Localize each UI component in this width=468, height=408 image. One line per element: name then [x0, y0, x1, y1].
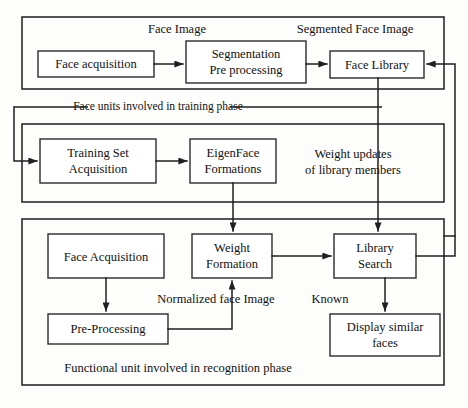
flowchart-canvas: Face units involved in training phase Fa… [0, 0, 468, 408]
node-library-search-label-line2: Search [358, 257, 393, 271]
flowchart-diagram: Face units involved in training phase Fa… [0, 0, 468, 408]
node-face-acquisition-top-label: Face acquisition [55, 57, 137, 71]
node-segmentation-label-line2: Pre processing [209, 63, 283, 77]
node-face-acquisition-bottom-label: Face Acquisition [64, 250, 149, 264]
edge-label-segmented-face-image: Segmented Face Image [297, 22, 414, 36]
node-segmentation-label-line1: Segmentation [212, 47, 281, 61]
recognition-phase-caption: Functional unit involved in recognition … [64, 361, 292, 375]
node-eigenface-label-line2: Formations [205, 162, 262, 176]
node-training-set-label-line1: Training Set [67, 146, 129, 160]
node-face-library-label: Face Library [345, 58, 410, 72]
edge-label-weight-updates-line1: Weight updates [314, 147, 391, 161]
edge-label-known: Known [312, 292, 350, 306]
edge-label-normalized-face-image: Normalized face Image [157, 292, 275, 306]
training-phase-caption: Face units involved in training phase [73, 100, 243, 113]
node-weight-formation-label-line2: Formation [206, 257, 259, 271]
edge-label-weight-updates-line2: of library members [305, 163, 401, 177]
edge-feedback-into-training-set [14, 107, 37, 161]
edge-library-search-feedback-to-face-library [416, 64, 455, 256]
node-display-similar-label-line1: Display similar [347, 320, 425, 334]
node-library-search-label-line1: Library [356, 241, 394, 255]
node-pre-processing-label: Pre-Processing [71, 322, 147, 336]
node-display-similar-label-line2: faces [372, 336, 398, 350]
node-eigenface-label-line1: EigenFace [207, 146, 260, 160]
edge-label-face-image: Face Image [148, 22, 206, 36]
node-weight-formation-label-line1: Weight [214, 241, 250, 255]
node-training-set-label-line2: Acquisition [69, 162, 128, 176]
